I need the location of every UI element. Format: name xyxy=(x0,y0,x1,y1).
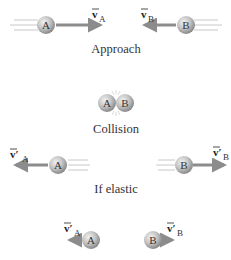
velocity-label-b: v′ B xyxy=(167,222,183,238)
stage-approach: A v A B v B Approach xyxy=(10,8,222,56)
velocity-label-b: v′ B xyxy=(213,146,229,162)
svg-text:A: A xyxy=(87,234,95,246)
ball-b: B xyxy=(144,231,162,249)
motion-lines-b xyxy=(156,160,175,170)
svg-text:A: A xyxy=(42,19,50,31)
svg-text:B: B xyxy=(121,97,128,109)
velocity-label-b: v B xyxy=(141,8,154,24)
ball-a: A xyxy=(98,94,116,112)
svg-text:v′: v′ xyxy=(64,222,73,234)
motion-lines-b xyxy=(194,20,222,30)
ball-a: A xyxy=(37,16,55,34)
ball-a: A xyxy=(49,156,67,174)
stage-final: A v′ A B v′ B xyxy=(64,222,183,249)
svg-text:B: B xyxy=(180,159,187,171)
svg-text:v′: v′ xyxy=(10,148,19,160)
svg-text:v: v xyxy=(141,8,147,20)
collision-diagram: A v A B v B Approach xyxy=(0,0,231,260)
svg-text:v′: v′ xyxy=(167,222,176,234)
motion-lines-a xyxy=(10,20,38,30)
stage-elastic: A v′ A B v′ B If elastic xyxy=(10,146,229,196)
svg-text:B: B xyxy=(149,234,156,246)
svg-text:B: B xyxy=(182,19,189,31)
svg-text:B: B xyxy=(148,14,154,24)
svg-text:v′: v′ xyxy=(213,146,222,158)
motion-lines-a xyxy=(68,160,90,170)
ball-a: A xyxy=(82,231,100,249)
caption-collision: Collision xyxy=(93,122,140,136)
svg-text:B: B xyxy=(177,228,183,238)
ball-b: B xyxy=(175,156,193,174)
svg-text:A: A xyxy=(54,159,62,171)
svg-text:B: B xyxy=(223,152,229,162)
velocity-label-a: v A xyxy=(92,8,106,24)
ball-b: B xyxy=(177,16,195,34)
ball-b: B xyxy=(116,94,134,112)
svg-text:A: A xyxy=(22,154,29,164)
svg-text:v: v xyxy=(92,8,98,20)
stage-collision: A B Collision xyxy=(93,90,140,136)
caption-approach: Approach xyxy=(91,42,141,56)
velocity-label-a: v′ A xyxy=(64,222,81,238)
caption-elastic: If elastic xyxy=(94,182,138,196)
svg-text:A: A xyxy=(99,14,106,24)
velocity-label-a: v′ A xyxy=(10,148,29,164)
svg-text:A: A xyxy=(103,97,111,109)
svg-text:A: A xyxy=(74,228,81,238)
